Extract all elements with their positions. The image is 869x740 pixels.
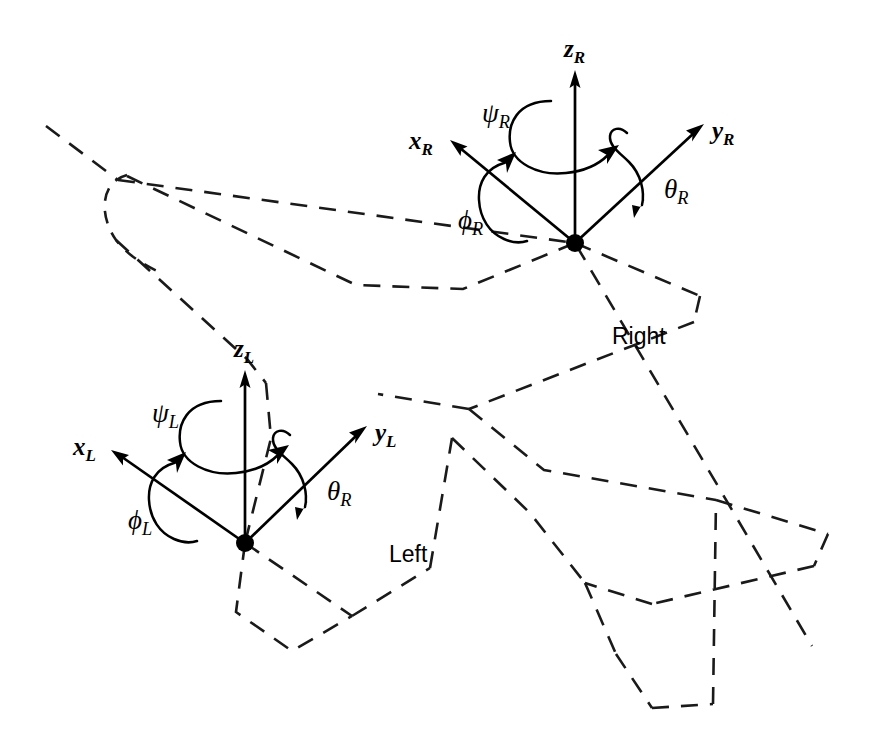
left-frame-x-axis-label: xL [73,434,96,464]
fuselage-centreline [46,126,118,180]
aircraft-coordinate-frames-figure: zR xR yR ψR ϕR θR zL xL yL ψL ϕL θR Righ… [0,0,869,740]
rear-body-lower-edge [452,438,585,583]
left-frame-z-axis-label: zL [234,336,254,366]
right-frame-yaw-label: ψR [482,100,510,132]
right-side-label: Right [612,323,666,350]
left-tailplane-leading-edge [585,583,616,654]
left-frame-origin-dot [236,534,254,552]
left-frame-yaw-arc [180,401,278,473]
left-tailplane-tip [616,654,652,708]
left-frame-pitch-arc [273,431,306,507]
left-frame-roll-arrowhead [167,452,186,473]
right-wing-tip [694,296,700,322]
fuselage-centreline-body [118,180,812,646]
left-frame-roll-arc [149,463,197,542]
left-frame-x-arrowhead [111,450,129,466]
rear-fuselage-port-edge [236,543,352,651]
left-wing-leading-edge [245,543,352,616]
rear-body-upper-edge [469,409,716,500]
right-frame-roll-arc [479,163,527,242]
right-frame-z-axis-label: zR [564,36,585,66]
right-frame-origin-dot [566,234,584,252]
right-tailplane-trailing-edge [652,566,814,604]
left-tailplane-root [713,500,716,704]
right-frame-yaw-arc [510,101,608,173]
left-wing-tip [352,568,430,616]
left-frame-y-axis-label: yL [375,420,397,450]
left-frame-roll-label: ϕL [128,507,152,539]
right-frame-roll-arrowhead [497,152,516,173]
left-frame-yaw-label: ψL [152,400,179,432]
right-wing-root-rear [378,394,469,409]
right-tailplane-tip [814,534,828,566]
left-side-label: Left [389,541,427,568]
left-wing-trailing-edge [430,438,452,568]
right-frame-roll-label: ϕR [458,207,483,239]
right-tailplane-root [585,583,652,604]
left-frame-pitch-label: θR [327,478,351,510]
right-frame-x-axis-label: xR [409,128,433,158]
right-tailplane-leading-edge [716,500,828,534]
right-frame-pitch-label: θR [664,176,688,208]
left-tailplane-trailing-edge [652,704,713,708]
right-frame-y-axis-label: yR [712,118,734,148]
right-wing-leading-edge [575,243,700,296]
right-frame-pitch-arc [610,129,643,205]
diagram-canvas [0,0,869,740]
